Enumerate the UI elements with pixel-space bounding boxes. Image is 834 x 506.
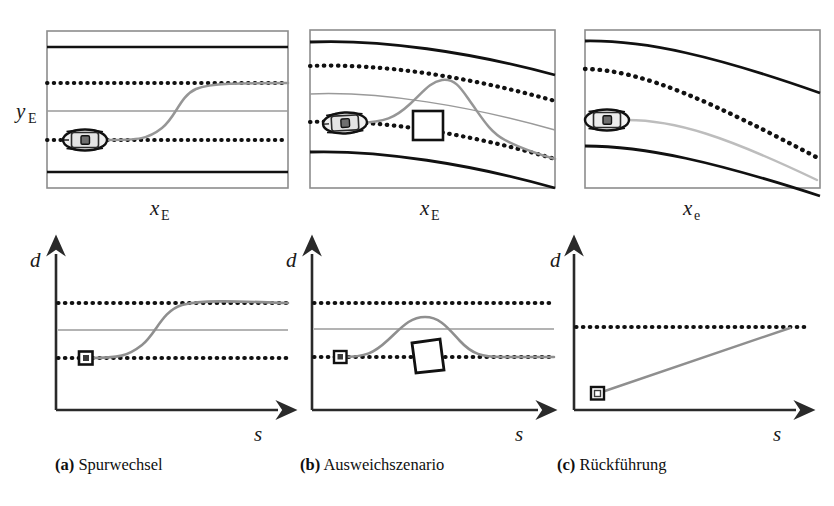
xlabel-sub: e xyxy=(694,208,700,223)
plot-b-frenet: d s xyxy=(270,225,570,455)
plot-c-xlabel: s xyxy=(773,422,781,446)
plot-b-svg: d s xyxy=(270,225,570,455)
plot-a-frenet: d s xyxy=(0,225,300,455)
xlabel-sub: E xyxy=(431,208,440,223)
plot-b-trajectory xyxy=(342,317,554,357)
panel-c-svg: x e xyxy=(565,0,834,225)
panel-b-svg: x E xyxy=(290,0,575,225)
caption-c: (c) Rückführung xyxy=(557,455,667,475)
plot-b-xlabel: s xyxy=(515,422,523,446)
ylabel-d: d xyxy=(286,248,297,272)
plot-c-trajectory xyxy=(599,328,790,393)
panel-a-cartesian: y E x E xyxy=(0,0,300,225)
xlabel-base: x xyxy=(682,196,693,220)
ylabel-base: y xyxy=(14,99,26,123)
panel-b-frame xyxy=(310,30,555,188)
caption-a-tag: (a) xyxy=(55,455,74,474)
panel-a-frame xyxy=(47,31,288,188)
xlabel-base: x xyxy=(419,196,430,220)
panel-b-obstacle-box xyxy=(413,111,443,140)
panel-b-cartesian: x E xyxy=(290,0,575,225)
ylabel-d: d xyxy=(550,248,561,272)
plot-a-svg: d s xyxy=(0,225,300,455)
panel-c-cartesian: x e xyxy=(565,0,834,225)
plot-a-ylabel: d xyxy=(30,248,41,272)
ego-vehicle-marker xyxy=(79,352,93,365)
xlabel-sub: E xyxy=(161,208,170,223)
xlabel-s: s xyxy=(773,422,781,446)
plot-b-ylabel: d xyxy=(286,248,297,272)
ylabel-sub: E xyxy=(28,111,37,126)
panel-a-ylabel: y E xyxy=(14,99,37,126)
car-top-view-icon xyxy=(63,130,107,151)
panel-b-xlabel: x E xyxy=(419,196,440,223)
panel-a-svg: y E x E xyxy=(0,0,300,225)
xlabel-s: s xyxy=(515,422,523,446)
caption-c-text: Rückführung xyxy=(579,455,666,474)
caption-c-tag: (c) xyxy=(557,455,575,474)
ylabel-d: d xyxy=(30,248,41,272)
ego-vehicle-marker xyxy=(334,351,347,363)
caption-a-text: Spurwechsel xyxy=(78,455,162,474)
xlabel-base: x xyxy=(149,196,160,220)
page-bleed-artifact xyxy=(8,492,528,502)
plot-c-svg: d s xyxy=(550,225,834,455)
panel-a-xlabel: x E xyxy=(149,196,170,223)
plot-b-obstacle-box xyxy=(412,339,444,373)
caption-row: (a) Spurwechsel (b) Ausweichszenario (c)… xyxy=(0,455,834,487)
car-top-view-icon xyxy=(322,111,367,134)
plot-c-ylabel: d xyxy=(550,248,561,272)
xlabel-s: s xyxy=(254,422,262,446)
panel-c-xlabel: x e xyxy=(682,196,700,223)
caption-a: (a) Spurwechsel xyxy=(55,455,163,475)
ego-vehicle-marker xyxy=(591,387,604,400)
car-top-view-icon xyxy=(585,110,629,131)
plot-a-xlabel: s xyxy=(254,422,262,446)
caption-b: (b) Ausweichszenario xyxy=(300,455,444,475)
plot-c-frenet: d s xyxy=(550,225,834,455)
caption-b-tag: (b) xyxy=(300,455,320,474)
caption-b-text: Ausweichszenario xyxy=(323,455,444,474)
figure-root: y E x E xyxy=(0,0,834,506)
